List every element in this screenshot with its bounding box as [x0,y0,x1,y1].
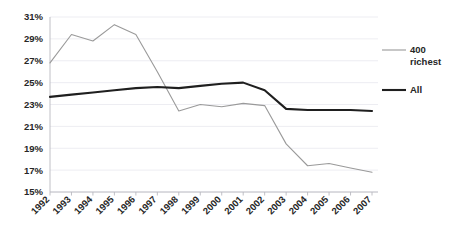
x-axis-tick-label: 2002 [243,194,266,217]
x-axis-tick-label: 2007 [351,194,374,217]
legend-label-1: richest [410,56,442,67]
y-axis-tick-label: 23% [24,99,44,110]
y-axis-tick-label: 27% [24,55,44,66]
x-axis-tick-label: 1996 [115,194,138,217]
chart-container: 15%17%19%21%23%25%27%29%31% 199219931994… [0,0,457,235]
x-axis-tick-label: 1993 [50,194,73,217]
x-axis-tick-label: 1998 [157,194,180,217]
x-axis-tick-label: 2003 [265,194,288,217]
x-axis-tick-label: 2001 [222,193,245,216]
x-axis-tick-label: 2004 [286,193,309,216]
x-axis-tick-label: 1994 [72,193,95,216]
y-axis-tick-label: 31% [24,11,44,22]
x-axis-tick-label: 1997 [136,194,159,217]
y-axis-tick-label: 17% [24,165,44,176]
series-line-2 [50,83,372,111]
x-axis-tick-label: 1999 [179,194,202,217]
line-chart: 15%17%19%21%23%25%27%29%31% 199219931994… [0,0,457,235]
y-axis-tick-label: 25% [24,77,44,88]
gridlines [50,17,378,192]
series-line-1 [50,25,372,173]
x-axis-tick-label: 2006 [329,194,352,217]
x-axis-tick-labels: 1992199319941995199619971998199920002001… [29,193,374,216]
x-axis-tick-label: 1995 [93,193,116,216]
y-axis-tick-labels: 15%17%19%21%23%25%27%29%31% [24,11,44,197]
x-axis-tick-label: 2000 [200,194,223,217]
y-axis-tick-label: 29% [24,33,44,44]
legend-label-1: 400 [410,44,426,55]
chart-legend: 400richestAll [382,44,442,95]
legend-label-2: All [410,84,422,95]
x-axis-tick-label: 2005 [308,193,331,216]
y-axis-tick-label: 21% [24,121,44,132]
data-series-layer [50,25,372,173]
y-axis-tick-label: 19% [24,143,44,154]
